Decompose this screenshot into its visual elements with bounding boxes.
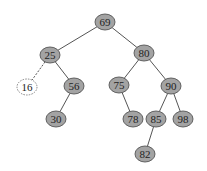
tree-edge-80-75 <box>124 60 138 78</box>
tree-nodes: 692580165675903078859882 <box>17 14 193 162</box>
tree-edge-25-16 <box>32 62 45 80</box>
node-label: 90 <box>166 80 178 92</box>
node-label: 98 <box>178 113 190 125</box>
node-label: 85 <box>151 113 163 125</box>
node-label: 30 <box>51 113 63 125</box>
tree-node-78: 78 <box>123 111 143 127</box>
binary-search-tree-diagram: 692580165675903078859882 <box>0 0 207 171</box>
tree-edge-69-80 <box>112 28 137 48</box>
tree-edges <box>32 27 180 146</box>
tree-edge-69-25 <box>58 27 97 50</box>
tree-node-85: 85 <box>146 111 166 127</box>
tree-edge-80-90 <box>149 60 165 80</box>
node-label: 56 <box>69 80 81 92</box>
tree-node-98: 98 <box>173 111 193 127</box>
tree-node-82: 82 <box>135 146 155 162</box>
tree-edge-56-30 <box>60 93 70 111</box>
node-label: 78 <box>128 113 140 125</box>
tree-edge-75-78 <box>122 93 130 112</box>
tree-edge-90-98 <box>174 94 180 112</box>
tree-node-90: 90 <box>161 78 181 94</box>
node-label: 69 <box>100 16 112 28</box>
tree-node-75: 75 <box>109 77 129 93</box>
tree-edge-90-85 <box>159 94 167 112</box>
tree-node-30: 30 <box>46 111 66 127</box>
tree-node-69: 69 <box>95 14 115 30</box>
tree-node-56: 56 <box>64 78 84 94</box>
tree-edge-85-82 <box>147 127 153 146</box>
node-label: 82 <box>140 148 151 160</box>
tree-edge-25-56 <box>55 62 68 79</box>
node-label: 25 <box>45 49 57 61</box>
tree-node-25: 25 <box>40 47 60 63</box>
tree-node-80: 80 <box>134 45 154 61</box>
tree-node-16: 16 <box>17 79 37 95</box>
node-label: 16 <box>22 81 34 93</box>
node-label: 80 <box>139 47 151 59</box>
node-label: 75 <box>114 79 126 91</box>
